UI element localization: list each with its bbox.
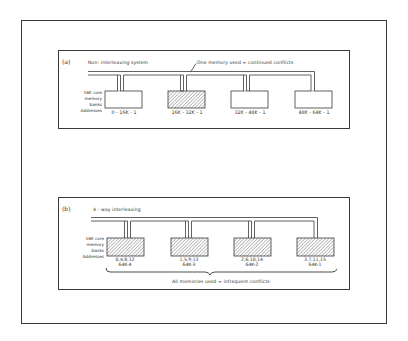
panel-b-side-labels: 16K core memory banks Addresses (76, 236, 104, 260)
banks-a (105, 91, 332, 108)
bank-b1-address: 0,4,8,12 64K-4 (105, 257, 145, 267)
panel-b-footer: All memories used = infrequent conflicts (172, 279, 270, 284)
panel-b-title: 4 - way interleaving (93, 207, 141, 212)
brace (106, 268, 337, 275)
bank-a2-address: 16K - 32K - 1 (166, 110, 208, 115)
bus-a (88, 64, 315, 92)
bank-b2-address: 1,5,9,13 64K-3 (169, 257, 209, 267)
banks-b (107, 238, 334, 256)
panel-a-tag: (a) (62, 58, 70, 65)
side-label-addresses: Addresses (74, 108, 102, 114)
bank-b4-last: 64K-1 (295, 262, 335, 267)
bank-b4-address: 3,7,11,15 64K-1 (295, 257, 335, 267)
bank-a1-address: 0 - 16K - 1 (104, 110, 144, 115)
side-label-addresses: Addresses (76, 254, 104, 260)
bank-a4-address: 48K - 64K - 1 (293, 110, 335, 115)
bank-b2-last: 64K-3 (169, 262, 209, 267)
panel-a-title: Non- interleaving system (88, 60, 148, 65)
panel-a-annotation: One memory used = continued conflicts (197, 60, 293, 65)
bank-b3-address: 2,6,10,14 64K-2 (232, 257, 272, 267)
bank-a3-address: 32K - 48K - 1 (229, 110, 271, 115)
bus-b (91, 218, 318, 239)
panel-a-side-labels: 16K core memory banks Addresses (74, 90, 102, 114)
bank-b1-last: 64K-4 (105, 262, 145, 267)
diagram-lines (0, 0, 408, 341)
bank-b3-last: 64K-2 (232, 262, 272, 267)
panel-b-tag: (b) (62, 205, 71, 212)
